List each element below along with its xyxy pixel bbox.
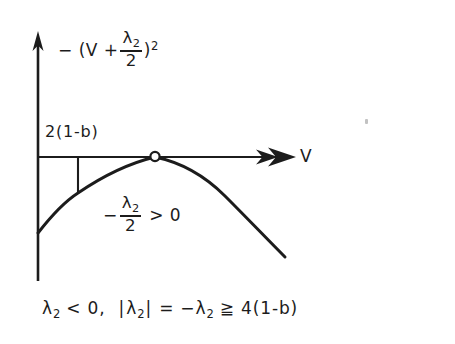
- expr-top-frac-denominator: 2: [120, 52, 141, 70]
- expression-inner: − λ2 2 >0: [103, 196, 181, 235]
- bottom-equals: =: [159, 298, 174, 318]
- scan-artifact-speck: [365, 119, 368, 124]
- expr-top-minus: −: [58, 40, 73, 60]
- bottom-neg-lambda-subscript: 2: [206, 307, 213, 321]
- expr-inner-fraction: λ2 2: [120, 195, 141, 234]
- expr-inner-value: 0: [170, 205, 181, 225]
- expr-inner-minus: −: [103, 205, 118, 225]
- expr-top-variable: V: [86, 40, 98, 60]
- bottom-zero: 0: [87, 298, 99, 318]
- expr-top-frac-numerator: λ2: [120, 30, 141, 50]
- expr-inner-relation: >: [149, 205, 164, 225]
- bottom-abs-close: |: [145, 298, 152, 318]
- expr-top-exponent: 2: [151, 39, 158, 53]
- expr-inner-lambda: λ: [122, 193, 132, 212]
- bottom-abs-lambda: λ: [126, 298, 137, 318]
- level-line-label: 2(1-b): [45, 124, 99, 140]
- expr-top-lambda: λ: [122, 28, 132, 47]
- expr-top-close-paren: ): [144, 40, 151, 60]
- bottom-neg-sign: −: [180, 298, 195, 318]
- expression-bottom: λ2<0,|λ2|=−λ2≧4(1-b): [42, 300, 298, 320]
- bottom-lambda: λ: [42, 298, 53, 318]
- expr-top-fraction: λ2 2: [120, 30, 141, 69]
- bottom-abs-open: |: [119, 298, 126, 318]
- expr-inner-frac-denominator: 2: [120, 217, 141, 235]
- horizontal-axis-label: V: [300, 148, 312, 165]
- bottom-comma: ,: [99, 298, 105, 318]
- expr-inner-frac-numerator: λ2: [120, 195, 141, 215]
- bottom-coefficient: 4: [241, 298, 253, 318]
- expr-inner-lambda-subscript: 2: [132, 201, 139, 215]
- bottom-less-than: <: [66, 298, 81, 318]
- expr-top-lambda-subscript: 2: [133, 36, 140, 50]
- expression-top: −(V+ λ2 2 )2: [58, 31, 158, 70]
- vertex-marker-circle: [150, 152, 159, 161]
- bottom-neg-lambda: λ: [195, 298, 206, 318]
- expr-top-open-paren: (: [79, 40, 86, 60]
- bottom-abs-lambda-subscript: 2: [137, 307, 144, 321]
- expr-top-plus: +: [104, 40, 119, 60]
- bottom-geq-symbol: ≧: [220, 298, 235, 318]
- bottom-lambda-subscript: 2: [53, 307, 60, 321]
- bottom-paren-expression: (1-b): [253, 298, 299, 318]
